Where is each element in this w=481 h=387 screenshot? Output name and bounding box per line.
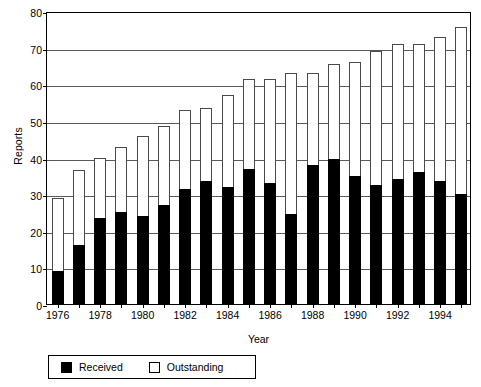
- bar-group: [307, 11, 319, 304]
- x-tick-mark: [461, 304, 462, 308]
- bar-segment-received: [73, 245, 85, 304]
- bar-segment-received: [370, 185, 382, 304]
- x-tick-mark: [270, 304, 271, 308]
- bar-group: [52, 11, 64, 304]
- bar-group: [243, 11, 255, 304]
- bars-layer: [47, 13, 470, 304]
- x-tick-mark: [121, 304, 122, 308]
- bar-segment-received: [328, 159, 340, 304]
- x-tick-label: 1990: [343, 310, 366, 321]
- bar-group: [179, 11, 191, 304]
- x-tick-label: 1978: [88, 310, 111, 321]
- bar-segment-received: [158, 205, 170, 304]
- bar-group: [285, 11, 297, 304]
- x-tick-mark: [398, 304, 399, 308]
- x-tick-mark: [313, 304, 314, 308]
- bar-group: [158, 11, 170, 304]
- y-tick-label: 30: [2, 191, 42, 202]
- bar-group: [200, 11, 212, 304]
- y-tick-label: 20: [2, 228, 42, 239]
- bar-segment-received: [413, 172, 425, 304]
- bar-segment-received: [52, 271, 64, 304]
- y-tick-label: 60: [2, 81, 42, 92]
- x-tick-label: 1982: [173, 310, 196, 321]
- y-tick-label: 40: [2, 154, 42, 165]
- bar-segment-received: [222, 187, 234, 304]
- x-tick-mark: [100, 304, 101, 308]
- legend-swatch-outstanding-icon: [149, 362, 160, 373]
- bar-segment-received: [243, 169, 255, 305]
- bar-segment-received: [307, 165, 319, 304]
- bar-segment-received: [137, 216, 149, 304]
- bar-group: [328, 11, 340, 304]
- bar-group: [115, 11, 127, 304]
- bar-group: [264, 11, 276, 304]
- x-tick-label: 1992: [386, 310, 409, 321]
- x-tick-mark: [355, 304, 356, 308]
- bar-group: [434, 11, 446, 304]
- bar-group: [222, 11, 234, 304]
- bar-group: [413, 11, 425, 304]
- bar-group: [94, 11, 106, 304]
- legend-label-outstanding: Outstanding: [167, 361, 224, 373]
- y-tick-label: 80: [2, 8, 42, 19]
- bar-segment-received: [179, 189, 191, 304]
- x-tick-mark: [228, 304, 229, 308]
- x-tick-mark: [206, 304, 207, 308]
- bar-segment-received: [94, 218, 106, 304]
- x-tick-label: 1988: [301, 310, 324, 321]
- x-tick-mark: [143, 304, 144, 308]
- stacked-bar-chart: Reports 01020304050607080 19761978198019…: [0, 0, 481, 387]
- plot-area: 01020304050607080 1976197819801982198419…: [46, 12, 471, 305]
- y-tick-mark: [43, 306, 47, 307]
- x-tick-mark: [440, 304, 441, 308]
- x-tick-mark: [334, 304, 335, 308]
- y-tick-label: 10: [2, 264, 42, 275]
- bar-segment-received: [200, 181, 212, 304]
- bar-segment-received: [285, 214, 297, 304]
- bar-segment-received: [455, 194, 467, 304]
- x-tick-mark: [185, 304, 186, 308]
- bar-group: [392, 11, 404, 304]
- x-tick-mark: [164, 304, 165, 308]
- y-tick-label: 70: [2, 44, 42, 55]
- bar-segment-received: [434, 181, 446, 304]
- bar-segment-received: [392, 179, 404, 304]
- x-tick-mark: [376, 304, 377, 308]
- x-tick-label: 1986: [258, 310, 281, 321]
- x-tick-label: 1976: [46, 310, 69, 321]
- y-tick-label: 50: [2, 118, 42, 129]
- bar-group: [137, 11, 149, 304]
- x-tick-mark: [249, 304, 250, 308]
- legend-label-received: Received: [79, 361, 123, 373]
- bar-group: [455, 11, 467, 304]
- x-tick-label: 1980: [131, 310, 154, 321]
- bar-group: [73, 11, 85, 304]
- legend-item-received: Received: [61, 361, 123, 373]
- bar-group: [370, 11, 382, 304]
- bar-segment-received: [349, 176, 361, 304]
- bar-segment-received: [264, 183, 276, 304]
- x-tick-mark: [58, 304, 59, 308]
- x-tick-mark: [291, 304, 292, 308]
- legend-item-outstanding: Outstanding: [149, 361, 224, 373]
- x-tick-label: 1994: [428, 310, 451, 321]
- x-tick-label: 1984: [216, 310, 239, 321]
- bar-segment-received: [115, 212, 127, 304]
- chart-legend: Received Outstanding: [48, 355, 256, 379]
- x-tick-mark: [79, 304, 80, 308]
- bar-group: [349, 11, 361, 304]
- x-tick-mark: [419, 304, 420, 308]
- y-tick-label: 0: [2, 301, 42, 312]
- legend-swatch-received-icon: [61, 362, 72, 373]
- x-axis-title: Year: [46, 333, 471, 345]
